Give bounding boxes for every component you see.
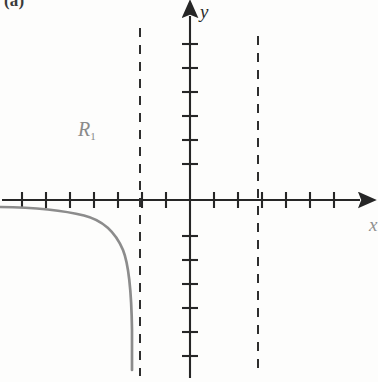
curve-r1 <box>0 207 132 370</box>
region-label-base: R <box>78 118 90 140</box>
x-axis-label: x <box>369 214 377 236</box>
panel-label: (a) <box>4 0 24 11</box>
region-label-subscript: 1 <box>90 130 96 142</box>
figure-container: (a) y x R1 <box>0 0 378 382</box>
y-axis <box>182 16 198 378</box>
y-axis-label: y <box>200 1 208 23</box>
coordinate-plane-graphic <box>0 0 378 382</box>
region-label-r1: R1 <box>78 118 96 141</box>
x-axis <box>2 192 360 208</box>
